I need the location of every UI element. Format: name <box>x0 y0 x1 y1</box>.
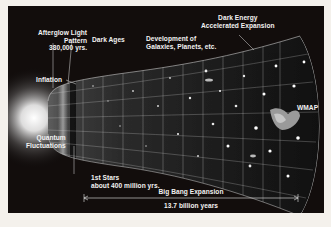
cosmic-timeline-panel: Afterglow Light Pattern 380,000 yrs. Dar… <box>8 6 324 213</box>
label-big-bang-expansion: Big Bang Expansion <box>136 188 246 196</box>
label-development: Development of Galaxies, Planets, etc. <box>146 35 216 50</box>
label-first-stars: 1st Stars about 400 million yrs. <box>91 174 160 189</box>
label-dark-energy: Dark Energy Accelerated Expansion <box>201 14 275 29</box>
label-wmap: WMAP <box>297 104 318 112</box>
label-quantum-fluctuations: Quantum Fluctuations <box>26 134 66 149</box>
label-afterglow: Afterglow Light Pattern 380,000 yrs. <box>38 29 87 52</box>
label-duration: 13.7 billion years <box>136 202 246 210</box>
label-inflation: Inflation <box>36 76 62 84</box>
label-dark-ages: Dark Ages <box>92 36 125 44</box>
